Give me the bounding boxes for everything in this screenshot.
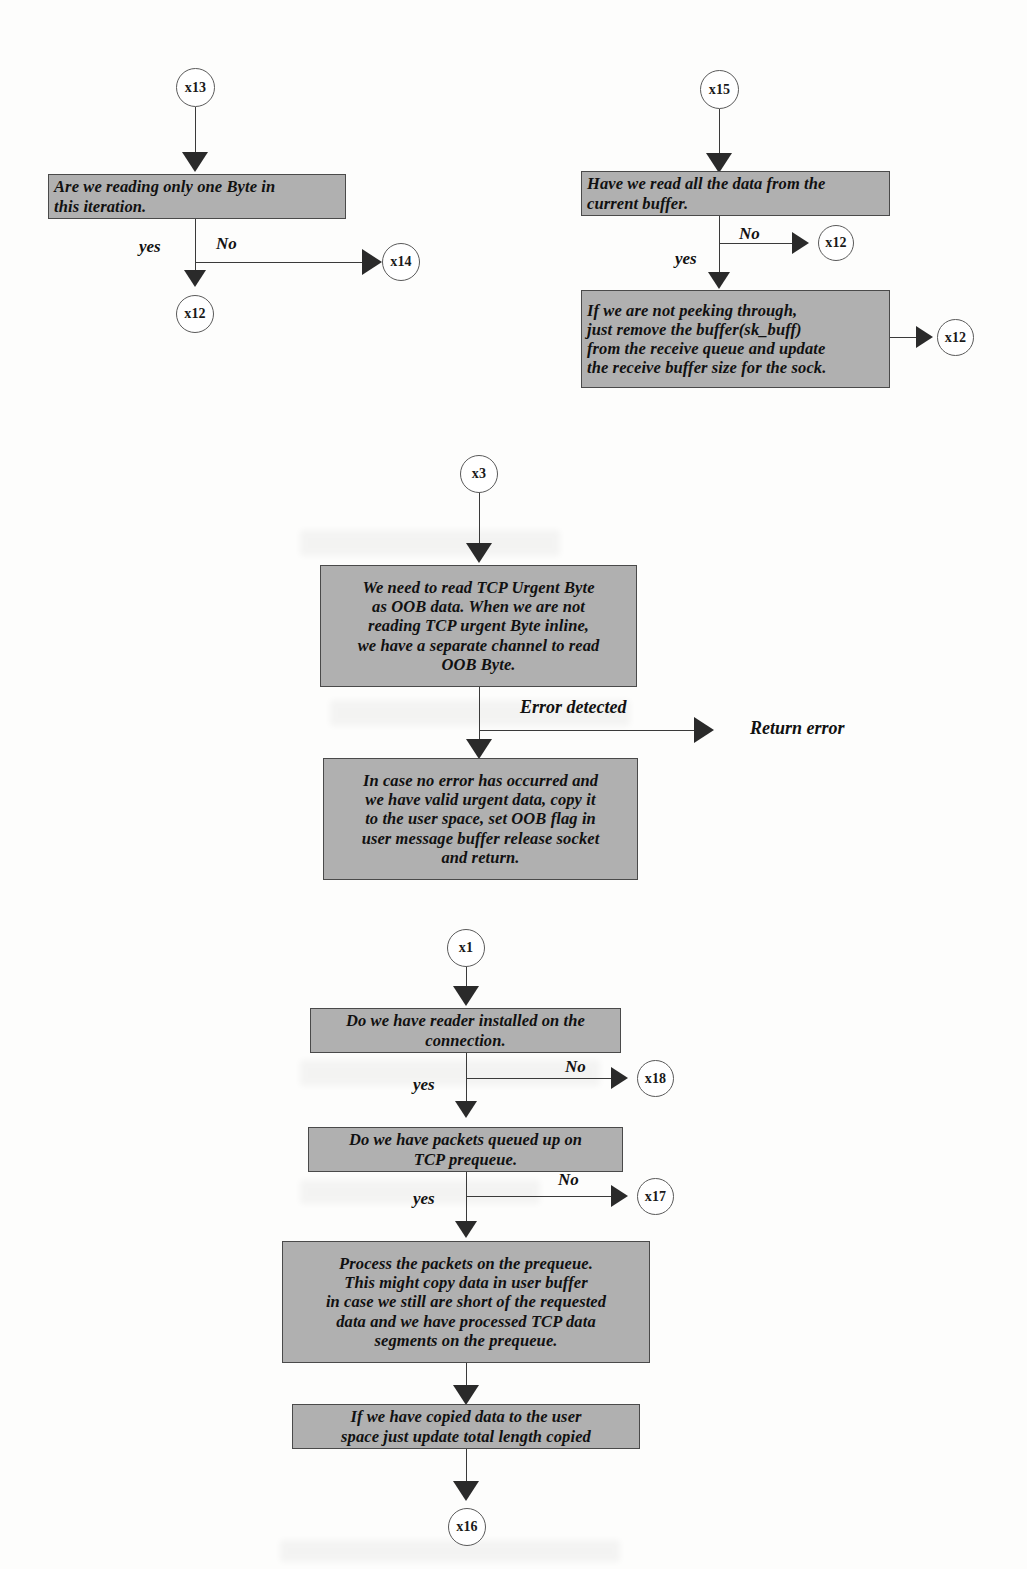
edge-label-no-4: No	[558, 1170, 579, 1190]
edge-label-yes-3: yes	[413, 1075, 435, 1095]
arrowhead-down	[466, 543, 492, 563]
arrowhead-down	[706, 153, 732, 173]
box-copied-data-text: If we have copied data to the user space…	[298, 1407, 634, 1445]
edge-label-yes-4: yes	[413, 1189, 435, 1209]
box-no-error: In case no error has occurred and we hav…	[323, 758, 638, 880]
box-no-error-text: In case no error has occurred and we hav…	[329, 771, 632, 867]
scan-smudge	[300, 530, 560, 556]
node-x14[interactable]: x14	[382, 243, 420, 281]
arrowhead-right	[916, 326, 933, 348]
arrowhead-down	[184, 270, 206, 287]
arrowhead-down	[453, 1385, 479, 1405]
arrowhead-right	[362, 249, 382, 275]
box-read-all-data-text: Have we read all the data from the curre…	[587, 174, 884, 212]
node-x16-label: x16	[456, 1519, 478, 1535]
box-copied-data: If we have copied data to the user space…	[292, 1404, 640, 1449]
box-one-byte: Are we reading only one Byte in this ite…	[48, 174, 346, 219]
edge-reader-no	[466, 1078, 618, 1079]
box-reader-installed-text: Do we have reader installed on the conne…	[316, 1011, 615, 1049]
node-x17[interactable]: x17	[637, 1178, 674, 1215]
node-x13-label: x13	[185, 80, 207, 96]
box-urgent-byte: We need to read TCP Urgent Byte as OOB d…	[320, 565, 637, 687]
box-packets-queued-text: Do we have packets queued up on TCP preq…	[314, 1130, 617, 1168]
arrowhead-down	[453, 986, 479, 1006]
edge-one-byte-yes	[195, 219, 196, 276]
arrowhead-down	[455, 1221, 477, 1238]
edge-x15-to-read-all	[719, 109, 720, 157]
edge-read-all-yes	[719, 216, 720, 280]
scan-smudge	[300, 1060, 600, 1086]
edge-x13-to-one-byte	[195, 107, 196, 155]
arrowhead-down	[466, 739, 492, 759]
node-x12-b-label: x12	[825, 235, 847, 251]
node-x15-label: x15	[709, 82, 731, 98]
node-x1[interactable]: x1	[447, 929, 485, 967]
arrowhead-right	[792, 232, 809, 254]
edge-x3-to-urgent	[479, 493, 480, 548]
arrowhead-down	[453, 1481, 479, 1501]
node-x12-b[interactable]: x12	[818, 225, 854, 261]
edge-label-no-2: No	[739, 224, 760, 244]
arrowhead-down	[708, 272, 730, 289]
node-x1-label: x1	[459, 940, 473, 956]
node-x12-c-label: x12	[945, 330, 967, 346]
edge-label-no-1: No	[216, 234, 237, 254]
box-not-peeking-text: If we are not peeking through, just remo…	[587, 301, 884, 378]
edge-label-yes-1: yes	[139, 237, 161, 257]
box-process-prequeue-text: Process the packets on the prequeue. Thi…	[288, 1254, 644, 1350]
edge-label-error-detected: Error detected	[520, 697, 626, 718]
node-x18[interactable]: x18	[637, 1060, 674, 1097]
edge-packets-no	[466, 1196, 618, 1197]
node-x12-a-label: x12	[184, 306, 206, 322]
node-x16[interactable]: x16	[448, 1508, 486, 1546]
arrowhead-right	[611, 1067, 628, 1089]
box-urgent-byte-text: We need to read TCP Urgent Byte as OOB d…	[326, 578, 631, 674]
node-x12-c[interactable]: x12	[937, 319, 974, 356]
edge-one-byte-no	[195, 262, 370, 263]
scan-smudge	[280, 1540, 620, 1562]
diagram-canvas: x13 Are we reading only one Byte in this…	[0, 0, 1027, 1569]
arrowhead-right	[611, 1185, 628, 1207]
terminal-return-error: Return error	[750, 718, 845, 739]
arrowhead-down	[182, 152, 208, 172]
node-x14-label: x14	[390, 254, 412, 270]
node-x12-a[interactable]: x12	[176, 295, 214, 333]
edge-label-yes-2: yes	[675, 249, 697, 269]
arrowhead-down	[455, 1101, 477, 1118]
node-x3[interactable]: x3	[460, 455, 498, 493]
box-packets-queued: Do we have packets queued up on TCP preq…	[308, 1127, 623, 1172]
node-x15[interactable]: x15	[700, 70, 739, 109]
box-read-all-data: Have we read all the data from the curre…	[581, 171, 890, 216]
node-x13[interactable]: x13	[176, 68, 215, 107]
box-one-byte-text: Are we reading only one Byte in this ite…	[54, 177, 340, 215]
edge-label-no-3: No	[565, 1057, 586, 1077]
node-x17-label: x17	[645, 1189, 667, 1205]
box-process-prequeue: Process the packets on the prequeue. Thi…	[282, 1241, 650, 1363]
arrowhead-right	[694, 717, 714, 743]
box-not-peeking: If we are not peeking through, just remo…	[581, 290, 890, 388]
edge-error-detected	[479, 730, 700, 731]
node-x18-label: x18	[645, 1071, 667, 1087]
box-reader-installed: Do we have reader installed on the conne…	[310, 1008, 621, 1053]
node-x3-label: x3	[472, 466, 486, 482]
